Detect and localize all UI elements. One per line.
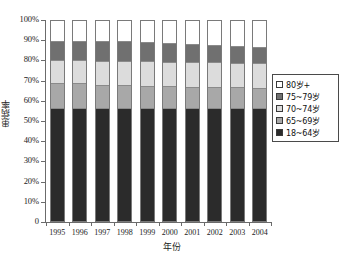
- y-axis-tick: [41, 20, 46, 21]
- bar-2000: [162, 20, 177, 222]
- legend-swatch-icon: [276, 129, 283, 136]
- y-axis-tick-label: 70%: [0, 76, 39, 85]
- bar-segment-18~64岁: [141, 108, 154, 222]
- x-axis-tick: [249, 222, 250, 226]
- legend-swatch-icon: [276, 93, 283, 100]
- x-axis-tick: [204, 222, 205, 226]
- legend-item-3: 65~69岁: [276, 114, 336, 126]
- bar-segment-18~64岁: [253, 108, 266, 222]
- legend-label: 75~79岁: [286, 91, 320, 102]
- bar-segment-75~79岁: [96, 41, 109, 61]
- bar-segment-80岁+: [253, 21, 266, 47]
- bar-segment-18~64岁: [96, 108, 109, 222]
- y-axis-tick-label: 10%: [0, 197, 39, 206]
- y-axis-tick-label: 40%: [0, 136, 39, 145]
- chart-legend: 80岁+75~79岁70~74岁65~69岁18~64岁: [272, 74, 339, 142]
- x-axis-tick: [91, 222, 92, 226]
- bar-segment-75~79岁: [163, 43, 176, 62]
- bar-segment-65~69岁: [186, 87, 199, 108]
- bar-segment-80岁+: [163, 21, 176, 43]
- bar-segment-65~69岁: [253, 88, 266, 108]
- bar-segment-65~69岁: [208, 87, 221, 108]
- bar-1998: [117, 20, 132, 222]
- legend-swatch-icon: [276, 81, 283, 88]
- bar-segment-65~69岁: [163, 86, 176, 108]
- bar-segment-65~69岁: [231, 87, 244, 108]
- bar-1995: [50, 20, 65, 222]
- y-axis-tick-label: 30%: [0, 156, 39, 165]
- y-axis-tick: [41, 202, 46, 203]
- bar-segment-75~79岁: [253, 47, 266, 63]
- x-axis-tick: [271, 222, 272, 226]
- y-axis-tick-label: 100%: [0, 15, 39, 24]
- bar-segment-18~64岁: [186, 108, 199, 222]
- bar-segment-18~64岁: [208, 108, 221, 222]
- bar-segment-75~79岁: [73, 41, 86, 60]
- bar-1996: [72, 20, 87, 222]
- bar-segment-65~69岁: [73, 83, 86, 108]
- y-axis-tick: [41, 81, 46, 82]
- legend-label: 65~69岁: [286, 115, 320, 126]
- bar-segment-75~79岁: [186, 44, 199, 62]
- bar-segment-80岁+: [141, 21, 154, 42]
- bar-segment-70~74岁: [141, 61, 154, 85]
- bar-segment-18~64岁: [163, 108, 176, 222]
- bar-segment-75~79岁: [51, 41, 64, 60]
- bar-segment-80岁+: [186, 21, 199, 44]
- bar-segment-70~74岁: [231, 63, 244, 86]
- bar-segment-70~74岁: [96, 61, 109, 84]
- x-axis-tick: [46, 222, 47, 226]
- bar-segment-70~74岁: [208, 62, 221, 86]
- bar-2002: [207, 20, 222, 222]
- x-axis-tick: [114, 222, 115, 226]
- legend-swatch-icon: [276, 105, 283, 112]
- bar-2001: [185, 20, 200, 222]
- bar-segment-18~64岁: [231, 108, 244, 222]
- bar-segment-75~79岁: [231, 46, 244, 63]
- y-axis-tick: [41, 121, 46, 122]
- x-axis-title: 年份: [0, 240, 343, 253]
- bar-segment-70~74岁: [118, 61, 131, 84]
- bar-segment-65~69岁: [51, 83, 64, 108]
- bar-segment-75~79岁: [208, 45, 221, 62]
- x-axis-tick-label: 2004: [247, 228, 273, 238]
- legend-swatch-icon: [276, 117, 283, 124]
- bar-1999: [140, 20, 155, 222]
- bar-2003: [230, 20, 245, 222]
- y-axis-tick: [41, 60, 46, 61]
- y-axis-tick: [41, 40, 46, 41]
- legend-label: 70~74岁: [286, 103, 320, 114]
- y-axis-tick: [41, 161, 46, 162]
- y-axis-tick-label: 80%: [0, 55, 39, 64]
- legend-item-0: 80岁+: [276, 78, 336, 90]
- legend-label: 18~64岁: [286, 127, 320, 138]
- bar-segment-80岁+: [118, 21, 131, 41]
- x-axis-tick: [181, 222, 182, 226]
- y-axis-title: 患病率: [0, 100, 11, 127]
- bar-segment-18~64岁: [51, 108, 64, 222]
- bar-segment-80岁+: [208, 21, 221, 45]
- legend-label: 80岁+: [286, 79, 310, 90]
- x-axis-tick: [136, 222, 137, 226]
- y-axis-tick-label: 0: [0, 217, 39, 226]
- y-axis-tick: [41, 182, 46, 183]
- legend-item-4: 18~64岁: [276, 126, 336, 138]
- bar-segment-80岁+: [96, 21, 109, 41]
- y-axis-tick-label: 90%: [0, 35, 39, 44]
- x-axis-tick: [69, 222, 70, 226]
- bar-segment-70~74岁: [253, 63, 266, 87]
- bar-segment-70~74岁: [163, 62, 176, 85]
- bar-segment-75~79岁: [141, 42, 154, 61]
- bar-segment-18~64岁: [73, 108, 86, 222]
- bar-segment-65~69岁: [118, 85, 131, 108]
- y-axis-tick-label: 20%: [0, 177, 39, 186]
- legend-item-1: 75~79岁: [276, 90, 336, 102]
- bar-1997: [95, 20, 110, 222]
- bar-segment-75~79岁: [118, 41, 131, 61]
- bar-segment-80岁+: [231, 21, 244, 46]
- legend-item-2: 70~74岁: [276, 102, 336, 114]
- y-axis-tick: [41, 101, 46, 102]
- bar-segment-70~74岁: [73, 60, 86, 82]
- bar-segment-70~74岁: [51, 60, 64, 82]
- bar-segment-65~69岁: [141, 86, 154, 108]
